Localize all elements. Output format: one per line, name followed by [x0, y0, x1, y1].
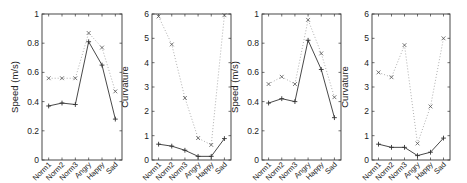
plus-marker-icon [319, 67, 324, 72]
y-tick-label: 4 [144, 58, 149, 68]
x-marker-icon [333, 95, 337, 99]
plus-marker-icon [306, 38, 311, 43]
plus-marker-icon [402, 145, 407, 150]
y-axis-label: Speed (m/s) [9, 61, 20, 113]
y-tick-label: 1 [34, 9, 39, 19]
plus-marker-icon [156, 142, 161, 147]
plus-marker-icon [332, 115, 337, 120]
x-marker-icon [429, 105, 433, 109]
chart-panel-2: 0123456CurvatureNorm1Norm2Norm3AngryHapp… [119, 9, 231, 182]
series-line-solid-plus [379, 138, 444, 156]
y-tick-label: 3 [364, 82, 369, 92]
plot-frame [42, 14, 122, 160]
series-line-dotted-x [49, 33, 116, 91]
y-tick-label: 0.8 [247, 38, 259, 48]
series-line-dotted-x [159, 15, 225, 145]
y-axis-label: Speed (m/s) [229, 61, 240, 113]
plot-frame [262, 14, 341, 160]
x-tick-label: Sad [323, 160, 339, 176]
chart-panel-1: 00.20.40.60.81Speed (m/s)Norm1Norm2Norm3… [9, 9, 122, 182]
plus-marker-icon [293, 99, 298, 104]
series-line-dotted-x [269, 20, 335, 97]
series-line-solid-plus [269, 40, 335, 117]
plus-marker-icon [46, 104, 51, 109]
chart-panel-4: 0123456CurvatureNorm1Norm2Norm3AngryHapp… [339, 9, 450, 182]
x-marker-icon [416, 142, 420, 146]
y-tick-label: 0.2 [247, 126, 259, 136]
y-tick-label: 0 [364, 155, 369, 165]
plus-marker-icon [415, 153, 420, 158]
x-tick-label: Sad [104, 160, 120, 176]
y-tick-label: 0.4 [247, 97, 259, 107]
x-marker-icon [100, 46, 104, 50]
plus-marker-icon [266, 101, 271, 106]
x-marker-icon [306, 18, 310, 22]
y-tick-label: 0 [34, 155, 39, 165]
y-tick-label: 4 [364, 58, 369, 68]
y-tick-label: 5 [144, 33, 149, 43]
plus-marker-icon [389, 145, 394, 150]
y-tick-label: 3 [144, 82, 149, 92]
series-line-solid-plus [49, 42, 116, 119]
y-axis-label: Curvature [339, 66, 350, 108]
y-tick-label: 0.6 [27, 67, 39, 77]
x-marker-icon [47, 76, 51, 80]
figure: 00.20.40.60.81Speed (m/s)Norm1Norm2Norm3… [0, 0, 467, 183]
y-tick-label: 1 [364, 131, 369, 141]
x-marker-icon [442, 36, 446, 40]
plus-marker-icon [169, 144, 174, 149]
series-line-dotted-x [379, 38, 444, 143]
y-tick-label: 0.8 [27, 38, 39, 48]
plus-marker-icon [183, 148, 188, 153]
y-tick-label: 2 [364, 106, 369, 116]
x-tick-label: Sad [213, 160, 229, 176]
y-tick-label: 0.4 [27, 97, 39, 107]
series-line-solid-plus [159, 139, 225, 157]
y-tick-label: 1 [144, 131, 149, 141]
x-marker-icon [170, 43, 174, 47]
plus-marker-icon [113, 117, 118, 122]
x-marker-icon [280, 75, 284, 79]
y-tick-label: 2 [144, 106, 149, 116]
chart-panel-3: 00.20.40.60.81Speed (m/s)Norm1Norm2Norm3… [229, 9, 341, 182]
x-marker-icon [390, 75, 394, 79]
chart-canvas: 00.20.40.60.81Speed (m/s)Norm1Norm2Norm3… [0, 0, 467, 183]
x-marker-icon [319, 52, 323, 56]
x-marker-icon [377, 71, 381, 75]
plus-marker-icon [100, 63, 105, 68]
plus-marker-icon [73, 102, 78, 107]
x-marker-icon [267, 82, 271, 86]
y-tick-label: 0.2 [27, 126, 39, 136]
plus-marker-icon [60, 101, 65, 106]
plot-frame [152, 14, 231, 160]
y-tick-label: 0 [254, 155, 259, 165]
y-tick-label: 6 [364, 9, 369, 19]
y-tick-label: 6 [144, 9, 149, 19]
y-tick-label: 5 [364, 33, 369, 43]
x-marker-icon [403, 43, 407, 47]
x-marker-icon [293, 82, 297, 86]
y-tick-label: 0.6 [247, 67, 259, 77]
plot-frame [372, 14, 450, 160]
y-tick-label: 0 [144, 155, 149, 165]
plus-marker-icon [279, 96, 284, 101]
x-tick-label: Sad [432, 160, 448, 176]
y-tick-label: 1 [254, 9, 259, 19]
y-axis-label: Curvature [119, 66, 130, 108]
x-marker-icon [196, 136, 200, 140]
plus-marker-icon [376, 142, 381, 147]
plus-marker-icon [196, 154, 201, 159]
